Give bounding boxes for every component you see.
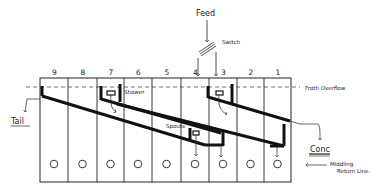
tail-arrow: [25, 99, 40, 112]
feed-label: Feed: [196, 9, 215, 18]
cell-number: 9: [52, 68, 57, 77]
middling-label-line2: Return Line.: [337, 168, 370, 174]
cell-outlet-circle: [219, 160, 227, 168]
cell-outlet-circle: [134, 160, 142, 168]
switch-label: Switch: [222, 39, 241, 45]
cell-number: 5: [165, 68, 170, 77]
cell-number: 1: [276, 68, 281, 77]
cell-outlet-circle: [79, 160, 87, 168]
shower-arrow-right: [219, 95, 227, 114]
cell-numbers: 987654321: [52, 68, 281, 77]
switch-icon: [199, 42, 216, 56]
cell-outlet-circle: [50, 160, 58, 168]
cell-number: 3: [221, 68, 226, 77]
shower-label: Shower: [124, 89, 145, 95]
cell-outlet-circle: [247, 160, 255, 168]
spouts-label: Spouts: [166, 123, 185, 130]
cell-number: 7: [109, 68, 114, 77]
flotation-diagram: Feed Switch 987654321 Froth Overflow Sho…: [0, 0, 392, 187]
conc-label: Conc: [310, 145, 330, 154]
conc-arrow: [300, 124, 320, 140]
cell-number: 4: [193, 68, 198, 77]
froth-overflow-label: Froth Overflow: [305, 85, 346, 91]
shower-box-right: [216, 91, 223, 95]
cell-circles: [50, 160, 281, 168]
cell-outlet-circle: [191, 160, 199, 168]
middling-label-line1: Middling: [330, 161, 353, 168]
cell-walls: [68, 78, 264, 182]
cell-outlet-circle: [163, 160, 171, 168]
cell-outlet-circle: [274, 160, 282, 168]
cell-number: 6: [136, 68, 141, 77]
cell-outlet-circle: [107, 160, 115, 168]
cell-number: 2: [249, 68, 254, 77]
tail-label: Tail: [10, 117, 24, 126]
shower-box-left: [107, 91, 115, 95]
cell-number: 8: [81, 68, 86, 77]
spout-box: [193, 131, 199, 135]
